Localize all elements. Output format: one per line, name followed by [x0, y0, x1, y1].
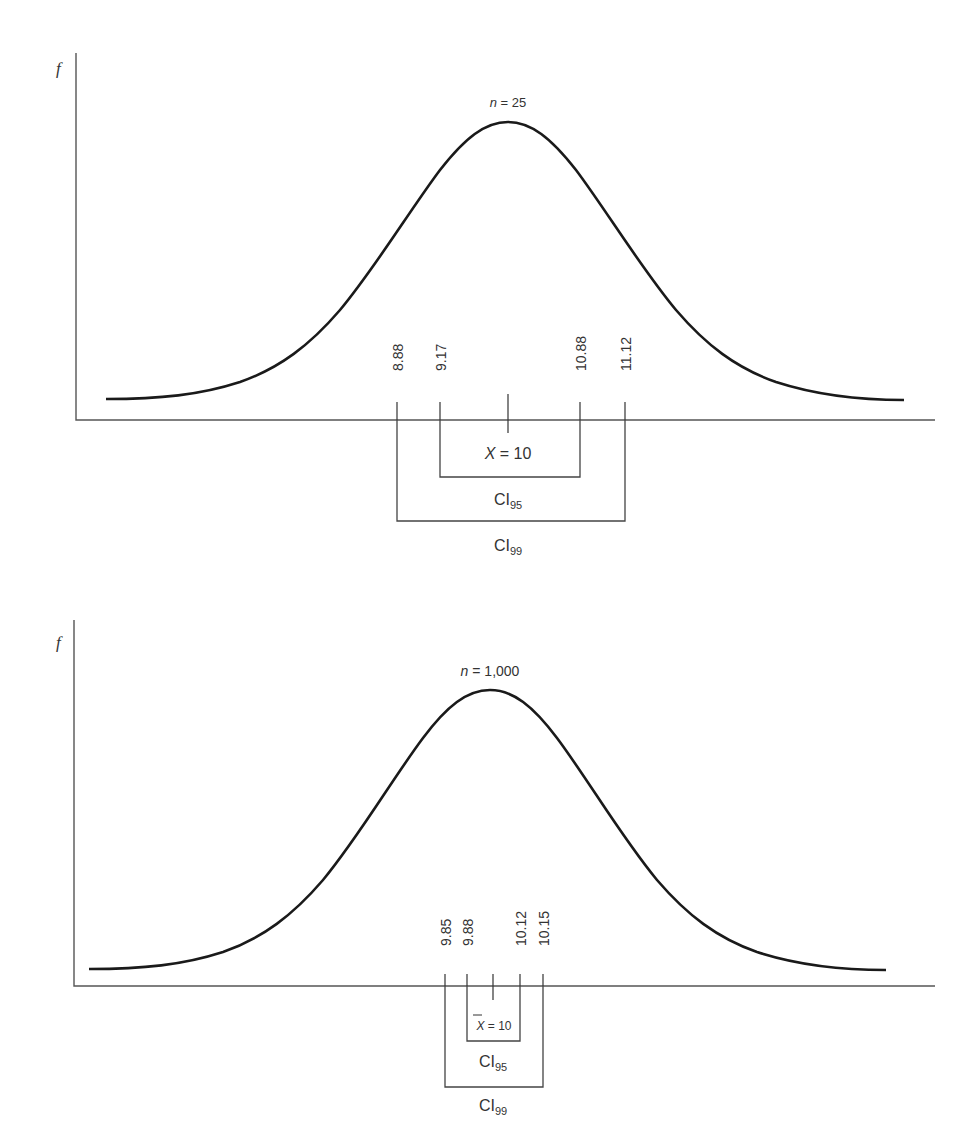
bottom-tick-label-9.88: 9.88 — [460, 919, 476, 946]
bottom-tick-label-10.15: 10.15 — [536, 911, 552, 946]
bottom-tick-label-10.12: 10.12 — [513, 911, 529, 946]
top-mean-label: X = 10 — [484, 445, 532, 462]
top-tick-label-9.17: 9.17 — [433, 344, 449, 371]
bottom-tick-label-9.85: 9.85 — [438, 919, 454, 946]
bottom-y-axis-label: f — [56, 633, 63, 652]
top-chart: f n = 25 8.88 9.17 10.88 11.12 X = 10 CI… — [56, 53, 935, 557]
bottom-chart: f n = 1,000 9.85 9.88 10.12 10.15 X = 10… — [56, 620, 935, 1117]
bottom-ci99-label: CI99 — [479, 1097, 507, 1117]
top-tick-label-8.88: 8.88 — [390, 344, 406, 371]
top-ci95-label: CI95 — [494, 491, 522, 511]
top-y-axis-label: f — [56, 59, 63, 78]
figure-canvas: f n = 25 8.88 9.17 10.88 11.12 X = 10 CI… — [0, 0, 975, 1129]
top-sample-size-label: n = 25 — [490, 95, 527, 110]
top-ci99-label: CI99 — [494, 537, 522, 557]
bottom-normal-curve — [89, 690, 886, 970]
top-normal-curve — [106, 122, 904, 400]
bottom-sample-size-label: n = 1,000 — [461, 663, 520, 679]
top-tick-label-10.88: 10.88 — [573, 336, 589, 371]
bottom-ci95-label: CI95 — [479, 1053, 507, 1073]
top-tick-label-11.12: 11.12 — [618, 337, 634, 371]
bottom-mean-label: X = 10 — [475, 1019, 511, 1033]
